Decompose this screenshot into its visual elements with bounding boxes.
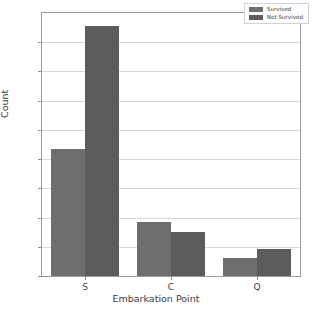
x-tick-mark: [85, 276, 86, 280]
bar-not-survived-Q: [257, 249, 291, 276]
y-tick-mark: [38, 276, 42, 277]
bar-survived-C: [137, 222, 171, 276]
legend: Survived Not Survived: [244, 3, 309, 24]
x-tick-label-S: S: [82, 282, 88, 292]
x-axis-title: Embarkation Point: [0, 293, 312, 304]
legend-label: Survived: [267, 7, 292, 13]
x-tick-mark: [257, 276, 258, 280]
bar-survived-S: [51, 149, 85, 276]
bar-series-container: [42, 13, 300, 276]
bar-chart-figure: Count 050100150200250300350400 SCQ Embar…: [0, 0, 312, 315]
bar-not-survived-S: [85, 26, 119, 276]
y-axis-title: Count: [0, 90, 10, 118]
plot-area: 050100150200250300350400 SCQ: [41, 12, 301, 277]
bar-not-survived-C: [171, 232, 205, 276]
legend-label: Not Survived: [267, 15, 303, 21]
figure-bottom-margin: [0, 309, 312, 315]
bar-survived-Q: [223, 258, 257, 276]
legend-swatch-icon: [249, 7, 263, 12]
legend-swatch-icon: [249, 15, 263, 20]
x-tick-mark: [171, 276, 172, 280]
legend-item-not-survived: Not Survived: [249, 15, 303, 21]
x-tick-label-Q: Q: [253, 282, 260, 292]
legend-item-survived: Survived: [249, 7, 303, 13]
x-tick-label-C: C: [168, 282, 174, 292]
